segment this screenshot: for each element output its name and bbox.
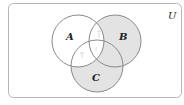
venn-diagram: A B C U <box>0 0 184 105</box>
universe-label: U <box>168 10 177 21</box>
set-c-label: C <box>92 72 100 83</box>
set-a-label: A <box>65 31 74 42</box>
set-b-label: B <box>118 31 127 42</box>
